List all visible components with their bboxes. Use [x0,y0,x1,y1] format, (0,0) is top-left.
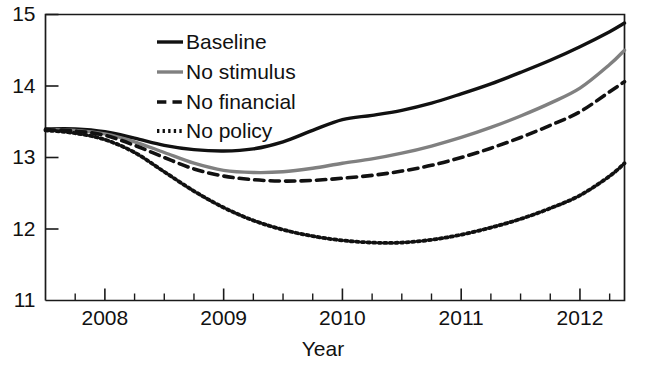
plot-frame [46,15,625,301]
legend-label-no-stimulus: No stimulus [186,60,296,83]
legend-label-no-financial: No financial [186,90,296,113]
x-tick-label: 2010 [319,306,366,329]
y-tick-label: 12 [12,217,35,240]
x-axis-tick-labels: 20082009201020112012 [82,306,604,329]
x-tick-label: 2008 [82,306,129,329]
y-tick-label: 14 [12,74,36,97]
series-line-no-policy [46,130,625,243]
legend-label-no-policy: No policy [186,119,273,142]
x-axis-ticks [75,289,609,301]
y-tick-label: 15 [12,2,35,25]
x-axis-title: Year [302,337,344,360]
series-line-no-financial [46,82,625,181]
x-tick-label: 2011 [439,306,484,329]
y-tick-label: 13 [12,145,35,168]
chart-legend: BaselineNo stimulusNo financialNo policy [157,30,296,142]
y-axis-ticks: 1112131415 [12,2,58,311]
legend-label-baseline: Baseline [186,30,267,53]
y-tick-label: 11 [14,288,36,311]
x-tick-label: 2012 [557,306,604,329]
x-tick-label: 2009 [200,306,247,329]
line-chart: 1112131415 20082009201020112012 Baseline… [0,0,646,366]
chart-figure: 1112131415 20082009201020112012 Baseline… [0,0,646,366]
series-line-baseline [46,23,625,151]
series-line-no-stimulus [46,50,625,172]
data-series-group [46,23,625,243]
